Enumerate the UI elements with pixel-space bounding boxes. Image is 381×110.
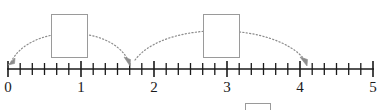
axis-label-0: 0 bbox=[4, 80, 12, 95]
jump-arc-1-arrowhead-end bbox=[124, 57, 131, 66]
axis-label-4: 4 bbox=[296, 80, 304, 95]
number-line-figure: 0 1 2 3 4 5 bbox=[0, 0, 381, 110]
answer-box-1[interactable] bbox=[51, 14, 88, 58]
axis-label-2: 2 bbox=[150, 80, 158, 95]
answer-box-2[interactable] bbox=[203, 14, 240, 58]
axis-label-1: 1 bbox=[77, 80, 85, 95]
jump-arc-2-arrowhead-end bbox=[300, 57, 308, 66]
jump-arc-1-arrowhead-start bbox=[8, 58, 15, 65]
axis-label-3: 3 bbox=[223, 80, 231, 95]
answer-box-3[interactable] bbox=[245, 103, 271, 110]
axis-label-5: 5 bbox=[369, 80, 377, 95]
